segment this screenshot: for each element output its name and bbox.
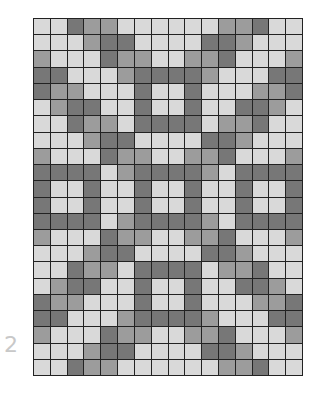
grid-cell <box>169 327 185 342</box>
grid-cell <box>51 360 67 375</box>
grid-cell <box>118 360 134 375</box>
grid-cell <box>185 279 201 294</box>
grid-cell <box>253 149 269 164</box>
grid-cell <box>219 100 235 115</box>
grid-cell <box>202 311 218 326</box>
grid-cell <box>118 51 134 66</box>
grid-cell <box>269 181 285 196</box>
grid-cell <box>169 133 185 148</box>
grid-cell <box>135 311 151 326</box>
grid-cell <box>118 344 134 359</box>
grid-cell <box>169 279 185 294</box>
grid-cell <box>68 116 84 131</box>
grid-cell <box>169 181 185 196</box>
grid-cell <box>286 35 302 50</box>
grid-cell <box>68 198 84 213</box>
grid-cell <box>219 279 235 294</box>
grid-cell <box>68 262 84 277</box>
grid-cell <box>219 311 235 326</box>
grid-cell <box>101 35 117 50</box>
grid-cell <box>135 279 151 294</box>
grid-cell <box>202 279 218 294</box>
grid-cell <box>101 198 117 213</box>
grid-cell <box>169 51 185 66</box>
grid-cell <box>84 181 100 196</box>
grid-cell <box>135 198 151 213</box>
grid-cell <box>51 133 67 148</box>
grid-cell <box>219 133 235 148</box>
grid-cell <box>236 344 252 359</box>
grid-cell <box>169 68 185 83</box>
grid-cell <box>84 246 100 261</box>
grid-cell <box>269 100 285 115</box>
grid-cell <box>202 149 218 164</box>
grid-cell <box>118 230 134 245</box>
grid-cell <box>286 116 302 131</box>
grid-cell <box>286 149 302 164</box>
grid-cell <box>101 279 117 294</box>
grid-cell <box>269 327 285 342</box>
grid-cell <box>202 327 218 342</box>
grid-cell <box>169 246 185 261</box>
grid-cell <box>84 165 100 180</box>
grid-cell <box>51 165 67 180</box>
grid-cell <box>169 116 185 131</box>
grid-cell <box>135 246 151 261</box>
grid-cell <box>269 262 285 277</box>
grid-cell <box>118 165 134 180</box>
grid-cell <box>51 51 67 66</box>
grid-cell <box>51 279 67 294</box>
grid-cell <box>236 84 252 99</box>
grid-cell <box>269 149 285 164</box>
grid-cell <box>51 262 67 277</box>
grid-cell <box>253 100 269 115</box>
grid-cell <box>34 262 50 277</box>
grid-cell <box>269 295 285 310</box>
grid-cell <box>169 230 185 245</box>
grid-cell <box>236 230 252 245</box>
grid-cell <box>185 133 201 148</box>
grid-cell <box>84 100 100 115</box>
grid-cell <box>202 198 218 213</box>
grid-cell <box>219 84 235 99</box>
grid-cell <box>185 246 201 261</box>
grid-cell <box>219 181 235 196</box>
grid-cell <box>152 51 168 66</box>
grid-cell <box>269 133 285 148</box>
grid-cell <box>68 214 84 229</box>
grid-cell <box>236 311 252 326</box>
grid-cell <box>152 181 168 196</box>
grid-cell <box>269 214 285 229</box>
grid-cell <box>84 279 100 294</box>
grid-cell <box>118 327 134 342</box>
grid-cell <box>269 230 285 245</box>
grid-cell <box>236 214 252 229</box>
grid-cell <box>185 84 201 99</box>
grid-cell <box>118 19 134 34</box>
grid-cell <box>269 68 285 83</box>
grid-cell <box>135 133 151 148</box>
grid-cell <box>269 165 285 180</box>
grid-cell <box>101 327 117 342</box>
grid-cell <box>269 84 285 99</box>
grid-cell <box>84 214 100 229</box>
grid-cell <box>34 84 50 99</box>
grid-cell <box>34 100 50 115</box>
grid-cell <box>202 165 218 180</box>
grid-cell <box>152 100 168 115</box>
grid-cell <box>253 35 269 50</box>
grid-cell <box>286 19 302 34</box>
grid-cell <box>101 165 117 180</box>
grid-cell <box>51 198 67 213</box>
grid-cell <box>101 311 117 326</box>
grid-cell <box>219 165 235 180</box>
grid-cell <box>202 246 218 261</box>
grid-cell <box>135 262 151 277</box>
grid-cell <box>185 262 201 277</box>
grid-cell <box>51 19 67 34</box>
grid-cell <box>34 230 50 245</box>
grid-cell <box>253 68 269 83</box>
grid-cell <box>118 214 134 229</box>
grid-cell <box>185 35 201 50</box>
grid-cell <box>286 68 302 83</box>
